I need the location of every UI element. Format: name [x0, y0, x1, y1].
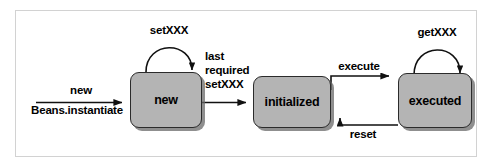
- edge-label-executed-to-initialized: reset: [339, 128, 387, 141]
- state-initialized[interactable]: initialized: [253, 76, 331, 128]
- state-new-label: new: [154, 93, 178, 107]
- state-executed[interactable]: executed: [398, 73, 472, 128]
- state-new[interactable]: new: [130, 72, 202, 128]
- edge-label-self-new: setXXX: [136, 24, 202, 37]
- edge-self-new: [146, 48, 192, 72]
- edge-label-new-to-initialized-line1: last: [205, 50, 224, 63]
- state-diagram-canvas: new initialized executed new Beans.insta…: [0, 0, 492, 166]
- edge-initialized-to-executed: [331, 76, 389, 90]
- state-executed-label: executed: [409, 94, 462, 108]
- edge-label-entry-bottom: Beans.instantiate: [16, 104, 138, 117]
- edge-label-new-to-initialized-line3: setXXX: [205, 78, 243, 91]
- state-initialized-label: initialized: [265, 95, 320, 109]
- edge-label-initialized-to-executed: execute: [331, 60, 387, 73]
- edge-self-executed: [414, 50, 460, 75]
- edge-label-new-to-initialized-line2: required: [205, 64, 249, 77]
- edge-label-entry-top: new: [31, 84, 131, 97]
- edge-label-self-executed: getXXX: [404, 26, 470, 39]
- edge-executed-to-initialized: [340, 118, 398, 125]
